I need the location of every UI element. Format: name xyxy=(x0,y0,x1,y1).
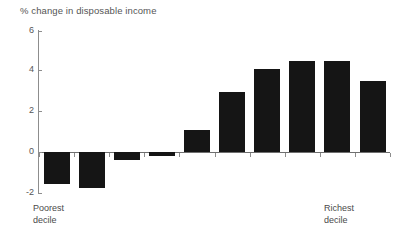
x-tick-8 xyxy=(320,153,321,157)
y-tick-4 xyxy=(38,70,42,71)
y-label-4: 4 xyxy=(12,65,34,74)
x-tick-7 xyxy=(285,153,286,157)
bar-decile-5 xyxy=(184,130,210,152)
bar-decile-4 xyxy=(149,152,175,156)
y-label-2: 2 xyxy=(12,106,34,115)
chart-container: % change in disposable income 6 4 2 0 -2… xyxy=(0,0,399,243)
x-tick-1 xyxy=(74,153,75,157)
y-tick-2 xyxy=(38,111,42,112)
x-tick-9 xyxy=(355,153,356,157)
bar-decile-6 xyxy=(219,92,245,153)
bar-decile-8 xyxy=(289,61,315,152)
bar-decile-10 xyxy=(360,81,386,152)
richest-decile-caption: Richest decile xyxy=(324,203,354,226)
bar-decile-9 xyxy=(324,61,350,152)
y-label-minus-2: -2 xyxy=(12,188,34,197)
x-tick-5 xyxy=(215,153,216,157)
bar-decile-3 xyxy=(114,152,140,160)
y-label-0: 0 xyxy=(12,147,34,156)
bar-decile-7 xyxy=(254,69,280,152)
y-tick-minus-2 xyxy=(38,193,42,194)
x-tick-10 xyxy=(390,153,391,157)
poorest-decile-caption: Poorest decile xyxy=(33,203,64,226)
x-tick-3 xyxy=(144,153,145,157)
y-tick-6 xyxy=(38,31,42,32)
y-axis-line xyxy=(38,30,39,194)
x-tick-0 xyxy=(39,153,40,157)
bar-decile-2 xyxy=(79,152,105,188)
bar-decile-1 xyxy=(44,152,70,184)
x-tick-6 xyxy=(250,153,251,157)
y-label-6: 6 xyxy=(12,26,34,35)
x-tick-4 xyxy=(179,153,180,157)
x-tick-2 xyxy=(109,153,110,157)
